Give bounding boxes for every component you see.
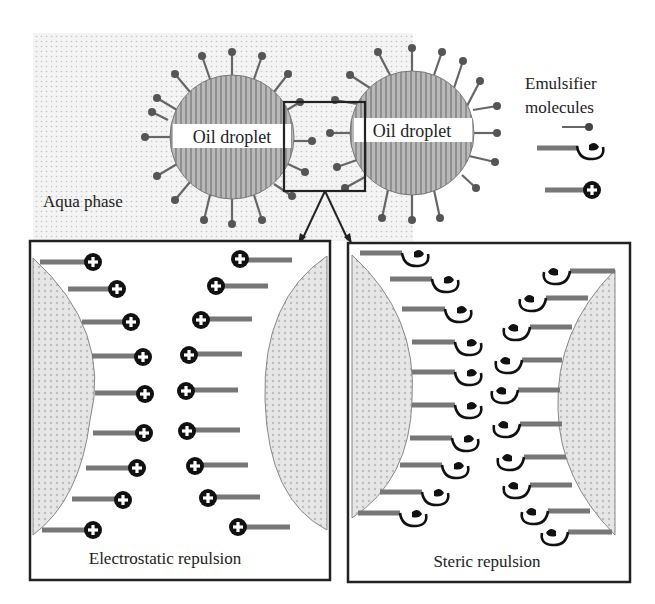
steric-repulsion-caption: Steric repulsion [433,552,541,571]
legend-title-line2: molecules [525,98,594,117]
oil-droplet-left-label: Oil droplet [193,127,272,147]
legend: Emulsifier molecules [525,74,603,199]
charged-ionic-emulsifier-icon [545,181,601,199]
legend-title-line1: Emulsifier [525,74,597,93]
oil-droplet-right-label: Oil droplet [373,121,452,141]
small-molecule-emulsifier-icon [562,123,593,131]
steric-repulsion-panel: Steric repulsion [348,243,630,582]
polymer-steric-emulsifier-icon [537,143,603,159]
electrostatic-repulsion-caption: Electrostatic repulsion [89,549,242,568]
emulsion-stabilization-diagram: Oil droplet Oil droplet Aqua phase Emuls… [0,0,655,604]
aqua-phase-label: Aqua phase [43,192,123,211]
electrostatic-repulsion-panel: Electrostatic repulsion [30,241,330,580]
